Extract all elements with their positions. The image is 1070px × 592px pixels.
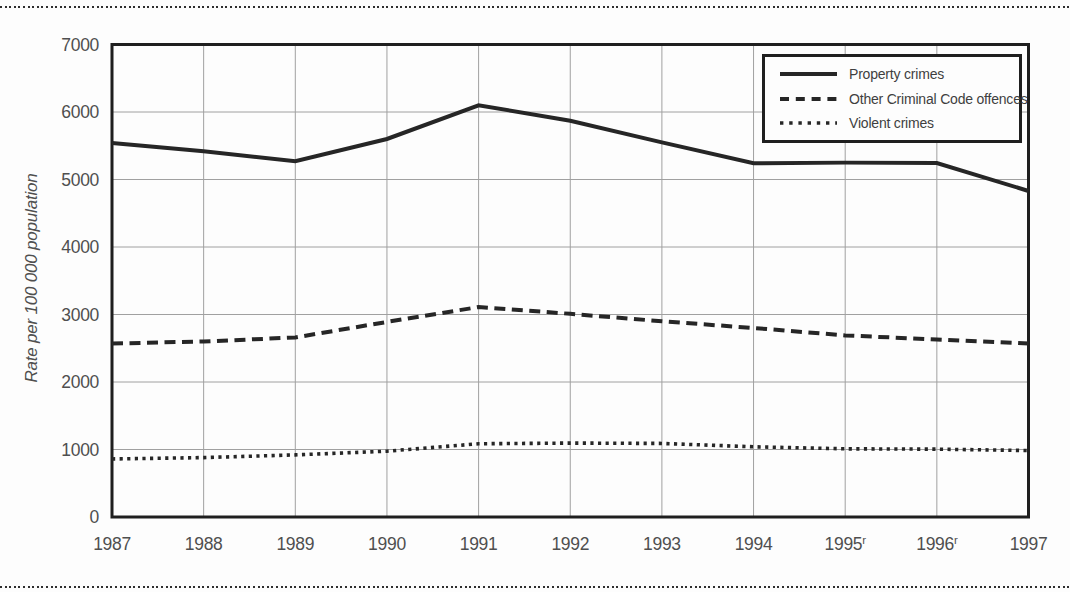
x-tick-label: 1996r [916,534,958,554]
figure-page: Rate per 100 000 population 010002000300… [0,0,1070,592]
legend-label: Violent crimes [849,115,934,131]
y-tick-label: 7000 [61,35,99,55]
y-tick-label: 5000 [61,170,99,190]
legend-item-violent-crimes: Violent crimes [780,115,1019,131]
legend-item-property-crimes: Property crimes [780,66,1019,82]
legend: Property crimes Other Criminal Code offe… [762,54,1022,143]
x-tick-label: 1994 [735,534,773,554]
legend-line-sample-dotted-icon [780,119,837,127]
y-tick-label: 0 [90,507,100,527]
y-tick-label: 3000 [61,305,99,325]
y-tick-label: 1000 [61,440,99,460]
x-tick-label: 1997 [1010,534,1048,554]
y-tick-label: 6000 [61,102,99,122]
x-tick-label: 1991 [460,534,498,554]
x-tick-label: 1993 [643,534,681,554]
x-tick-label: 1987 [93,534,131,554]
legend-item-other-criminal-code-offences: Other Criminal Code offences [780,91,1019,107]
x-tick-label: 1990 [368,534,406,554]
legend-label: Property crimes [849,66,944,82]
x-tick-label: 1989 [276,534,314,554]
legend-line-sample-dashed-icon [780,95,837,103]
x-tick-label: 1988 [185,534,223,554]
y-tick-label: 2000 [61,372,99,392]
x-tick-label: 1995r [825,534,867,554]
x-tick-label: 1992 [551,534,589,554]
legend-label: Other Criminal Code offences [849,91,1028,107]
y-tick-label: 4000 [61,237,99,257]
legend-line-sample-solid-icon [780,70,837,78]
